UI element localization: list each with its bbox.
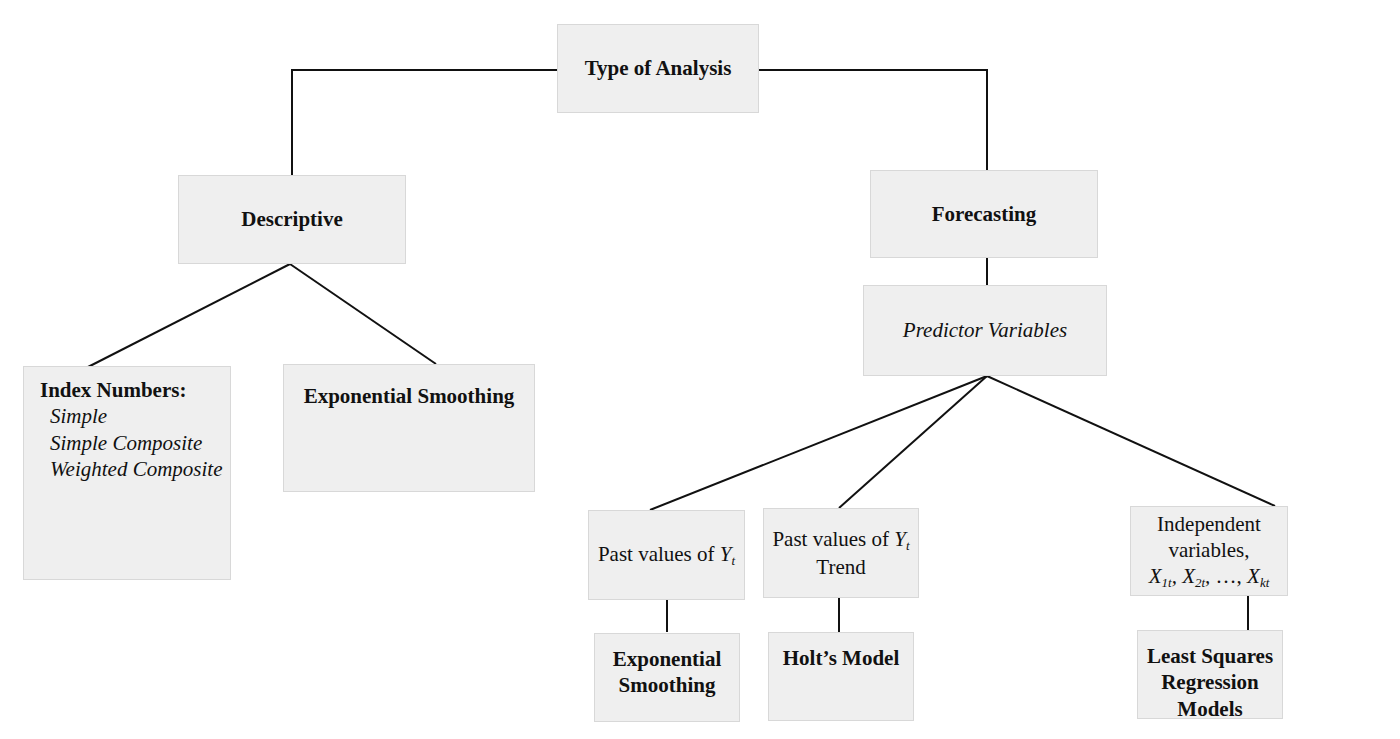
node-independent-variables: Independent variables, X1t, X2t, …, Xkt <box>1130 506 1288 596</box>
node-label-line2: Regression Models <box>1138 669 1282 722</box>
index-item-weighted-composite: Weighted Composite <box>34 456 222 482</box>
node-label: Past values of Yt <box>598 541 735 569</box>
index-item-simple: Simple <box>34 403 107 429</box>
node-label-line2: X1t, X2t, …, Xkt <box>1149 563 1270 591</box>
node-predictor-variables: Predictor Variables <box>863 285 1107 376</box>
node-holts-model: Holt’s Model <box>768 632 914 721</box>
node-label: Holt’s Model <box>783 645 899 671</box>
node-label-line2: Smoothing <box>619 672 716 698</box>
node-index-numbers: Index Numbers: Simple Simple Composite W… <box>23 366 231 580</box>
node-past-values: Past values of Yt <box>588 510 745 600</box>
node-exponential-smoothing-forecast: Exponential Smoothing <box>594 633 740 722</box>
node-descriptive: Descriptive <box>178 175 406 264</box>
node-label-line1: Independent variables, <box>1131 511 1287 564</box>
node-label: Predictor Variables <box>903 317 1067 343</box>
node-exponential-smoothing-descriptive: Exponential Smoothing <box>283 364 535 492</box>
node-label-line1: Past values of Yt <box>772 526 909 554</box>
node-label: Descriptive <box>241 206 342 232</box>
node-label-line1: Exponential <box>613 646 722 672</box>
index-item-simple-composite: Simple Composite <box>34 430 202 456</box>
node-type-of-analysis: Type of Analysis <box>557 24 759 113</box>
node-label-line2: Trend <box>816 554 865 580</box>
node-label-line1: Least Squares <box>1147 643 1273 669</box>
node-label: Exponential Smoothing <box>304 383 515 409</box>
index-numbers-title: Index Numbers: <box>34 377 186 403</box>
node-least-squares: Least Squares Regression Models <box>1137 630 1283 719</box>
node-label: Forecasting <box>932 201 1037 227</box>
node-forecasting: Forecasting <box>870 170 1098 258</box>
node-past-values-trend: Past values of Yt Trend <box>763 508 919 598</box>
node-label: Type of Analysis <box>585 55 732 81</box>
